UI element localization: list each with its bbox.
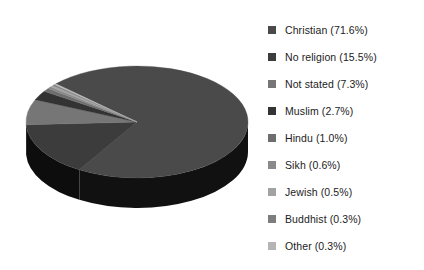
legend-swatch-icon [268, 107, 276, 115]
legend-item[interactable]: Sikh (0.6%) [268, 151, 418, 178]
chart-legend: Christian (71.6%)No religion (15.5%)Not … [268, 16, 418, 259]
legend-swatch-icon [268, 161, 276, 169]
legend-item-label: Buddhist (0.3%) [285, 213, 361, 225]
legend-item-label: Other (0.3%) [285, 240, 346, 252]
legend-item-label: Not stated (7.3%) [285, 78, 368, 90]
legend-swatch-icon [268, 188, 276, 196]
legend-swatch-icon [268, 80, 276, 88]
legend-item[interactable]: Muslim (2.7%) [268, 97, 418, 124]
pie-svg: Christian (71.6%)No religion (15.5%)Not … [24, 52, 250, 208]
legend-swatch-icon [268, 242, 276, 250]
legend-item-label: Muslim (2.7%) [285, 105, 353, 117]
legend-swatch-icon [268, 134, 276, 142]
legend-item[interactable]: Hindu (1.0%) [268, 124, 418, 151]
legend-item[interactable]: No religion (15.5%) [268, 43, 418, 70]
legend-item-label: No religion (15.5%) [285, 51, 377, 63]
pie-chart-graphic: Christian (71.6%)No religion (15.5%)Not … [24, 52, 250, 208]
legend-item[interactable]: Jewish (0.5%) [268, 178, 418, 205]
pie-top-slices: Christian (71.6%)No religion (15.5%)Not … [26, 66, 248, 178]
legend-swatch-icon [268, 215, 276, 223]
legend-item[interactable]: Other (0.3%) [268, 232, 418, 259]
legend-item-label: Hindu (1.0%) [285, 132, 347, 144]
legend-item-label: Sikh (0.6%) [285, 159, 340, 171]
legend-item[interactable]: Buddhist (0.3%) [268, 205, 418, 232]
legend-swatch-icon [268, 26, 276, 34]
legend-swatch-icon [268, 53, 276, 61]
legend-item-label: Christian (71.6%) [285, 24, 368, 36]
legend-item[interactable]: Not stated (7.3%) [268, 70, 418, 97]
legend-item-label: Jewish (0.5%) [285, 186, 352, 198]
pie-chart-figure: Christian (71.6%)No religion (15.5%)Not … [0, 0, 424, 270]
legend-item[interactable]: Christian (71.6%) [268, 16, 418, 43]
